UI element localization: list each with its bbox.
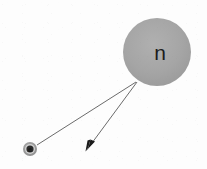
antineutrino-track bbox=[89, 82, 137, 147]
diagram-canvas: n e bbox=[0, 0, 207, 169]
electron-track bbox=[37, 82, 136, 145]
electron-label: e bbox=[28, 146, 32, 153]
particle-decay-diagram: n e bbox=[0, 0, 207, 169]
neutron-label: n bbox=[154, 41, 166, 64]
